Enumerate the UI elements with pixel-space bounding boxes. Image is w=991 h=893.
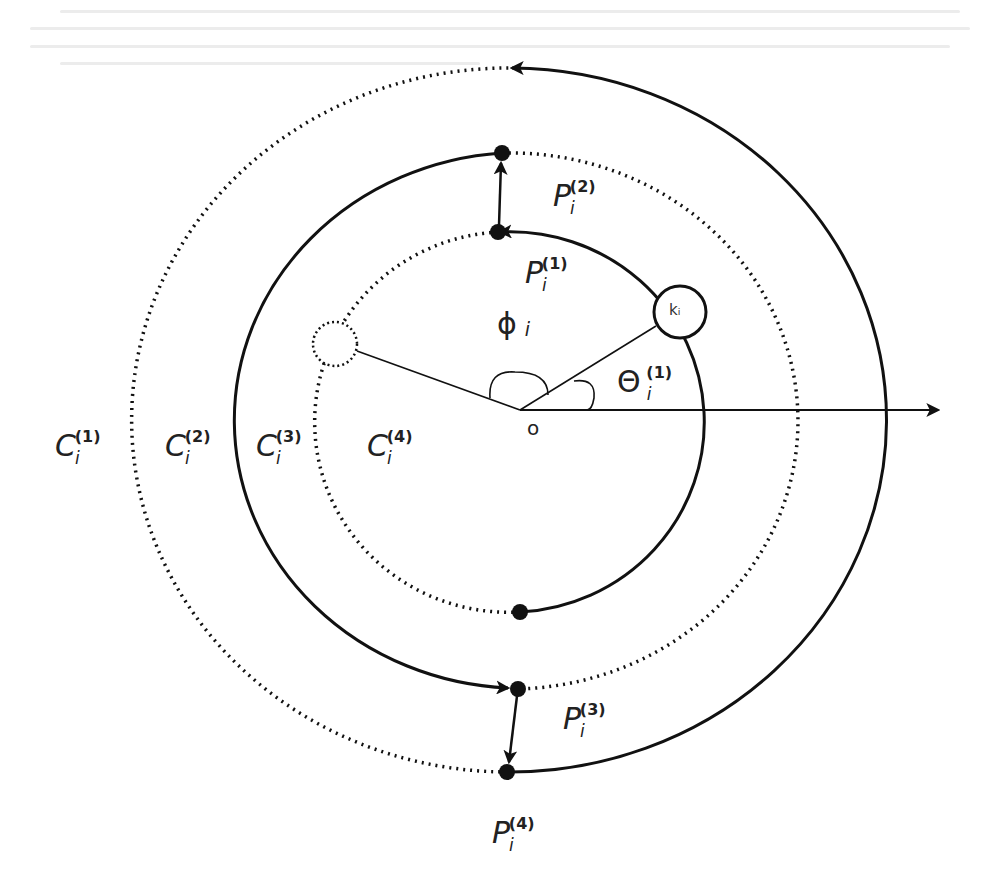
theta-angle-arc xyxy=(574,381,594,410)
circle-c3 xyxy=(315,232,705,613)
circle-c1-dotted-arc xyxy=(132,68,510,772)
label-c3: Ci(3) xyxy=(256,428,301,463)
circle-c3-dotted-arc xyxy=(315,232,520,612)
label-origin: o xyxy=(527,416,539,440)
circle-c2-solid-arc xyxy=(234,153,508,688)
circle-c1 xyxy=(132,68,887,772)
point-c3-end-dot xyxy=(512,604,528,620)
label-c4: Ci(4) xyxy=(367,428,412,463)
ghost-node-icon xyxy=(313,322,357,366)
label-ki: kᵢ xyxy=(669,301,680,319)
jump-arrow-p3-to-p4 xyxy=(509,696,517,762)
label-p1: Pi(1) xyxy=(525,255,568,290)
label-c2: Ci(2) xyxy=(165,428,210,463)
point-p4-dot xyxy=(499,764,515,780)
radius-to-ghost xyxy=(357,351,520,410)
jump-arrow-p1-to-p2 xyxy=(499,163,501,225)
label-p4: Pi(4) xyxy=(492,815,535,850)
point-p2-dot xyxy=(494,145,510,161)
label-c1: Ci(1) xyxy=(55,428,100,463)
circle-c1-solid-arc xyxy=(507,68,887,772)
point-p1-dot xyxy=(490,224,506,240)
polar-orbit-diagram xyxy=(0,0,991,893)
point-p3-dot xyxy=(510,681,526,697)
label-p2: Pi(2) xyxy=(553,178,596,213)
label-theta: Θi(1) xyxy=(617,364,672,399)
phi-angle-arc xyxy=(490,372,548,398)
label-phi: ϕi xyxy=(497,306,530,341)
label-p3: Pi(3) xyxy=(563,701,606,736)
